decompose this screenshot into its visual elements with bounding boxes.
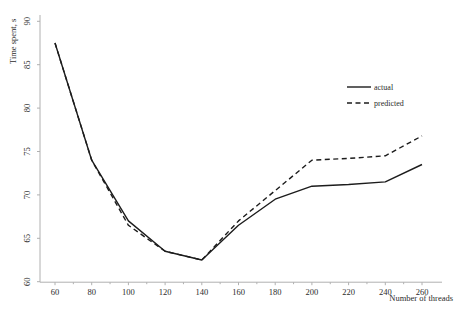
x-tick-label: 120 bbox=[159, 287, 172, 297]
line-chart-canvas: 6065707580859060801001201401601802002202… bbox=[0, 0, 462, 321]
y-tick-label: 70 bbox=[22, 191, 32, 200]
x-tick-label: 220 bbox=[342, 287, 355, 297]
y-tick-label: 75 bbox=[22, 147, 32, 156]
x-tick-label: 100 bbox=[122, 287, 135, 297]
x-axis-title: Number of threads bbox=[389, 293, 453, 303]
legend-label-actual: actual bbox=[374, 83, 394, 92]
x-tick-label: 60 bbox=[51, 287, 60, 297]
x-tick-label: 80 bbox=[87, 287, 96, 297]
x-tick-label: 200 bbox=[306, 287, 319, 297]
y-tick-label: 80 bbox=[22, 104, 32, 113]
series-actual-line bbox=[55, 43, 422, 260]
x-tick-label: 180 bbox=[269, 287, 282, 297]
y-tick-label: 65 bbox=[22, 234, 32, 243]
legend-label-predicted: predicted bbox=[374, 99, 404, 108]
y-axis-title: Time spent, s bbox=[8, 19, 18, 64]
y-tick-label: 90 bbox=[22, 17, 32, 26]
chart: 6065707580859060801001201401601802002202… bbox=[0, 0, 462, 321]
y-tick-label: 60 bbox=[22, 277, 32, 286]
x-tick-label: 140 bbox=[195, 287, 208, 297]
x-tick-label: 160 bbox=[232, 287, 245, 297]
y-tick-label: 85 bbox=[22, 60, 32, 69]
series-predicted-line bbox=[55, 43, 422, 260]
